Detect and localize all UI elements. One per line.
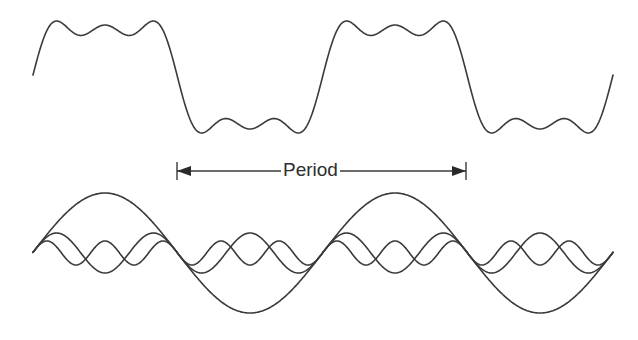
- composite-square-wave: [33, 21, 613, 133]
- period-label: Period: [281, 160, 340, 180]
- arrow-right-icon: [452, 166, 466, 176]
- harmonic-components: [33, 193, 613, 313]
- fifth-harmonic-wave: [33, 241, 613, 265]
- arrow-left-icon: [177, 166, 191, 176]
- fourier-diagram: Period: [0, 0, 638, 340]
